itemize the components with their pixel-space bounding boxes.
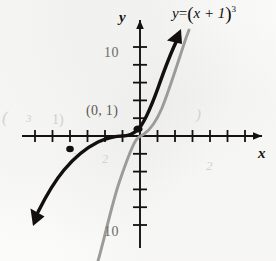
equation-equals: = [179,5,187,21]
equation-base: x + 1 [193,5,225,21]
point-label-0-1: (0, 1) [86,104,118,118]
equation-lhs: y [172,5,179,21]
coordinate-plane [0,0,276,261]
y-axis-label: y [119,10,126,25]
equation-label: y=(x + 1)3 [172,4,236,23]
x-axis-label: x [258,146,266,161]
curve-arrow-upper-right [167,29,182,44]
y-tick-label-negative-10: 10 [104,225,119,239]
point-neg1-0 [66,146,74,152]
curve-x-plus-1-cubed [38,38,178,212]
point-0-1 [133,125,142,132]
equation-exponent: 3 [232,4,237,14]
math-figure: ( 3 1) ) 2 2 3 [0,0,276,261]
y-tick-label-positive-10: 10 [104,46,119,60]
